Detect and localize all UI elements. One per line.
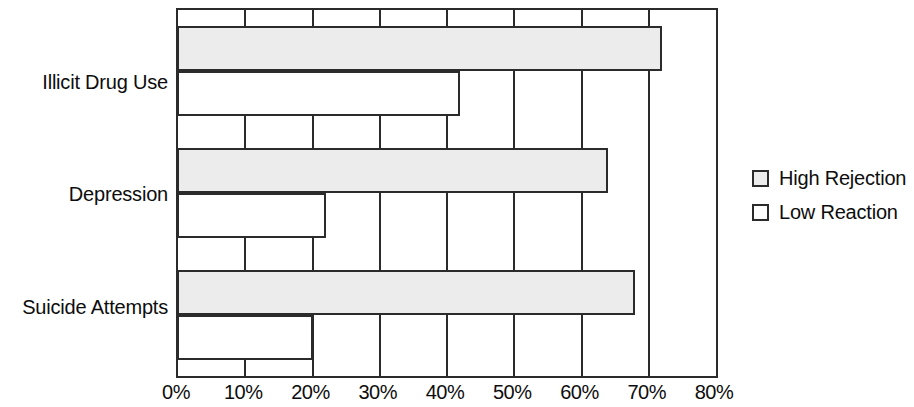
x-tick-label: 0%	[162, 380, 190, 404]
bar-depression-high-rejection	[177, 148, 608, 193]
legend-label-low-reaction: Low Reaction	[779, 201, 898, 223]
x-tick-label: 40%	[426, 380, 465, 404]
x-tick-label: 70%	[627, 380, 666, 404]
category-label-depression: Depression	[69, 183, 168, 205]
bar-illicit-drug-use-low-reaction	[177, 71, 460, 116]
x-tick-label: 60%	[560, 380, 599, 404]
legend-label-high-rejection: High Rejection	[779, 167, 906, 189]
bar-illicit-drug-use-high-rejection	[177, 26, 662, 71]
legend-swatch-icon-high-rejection	[752, 170, 769, 187]
bar-suicide-attempts-high-rejection	[177, 270, 635, 315]
category-label-illicit-drug-use: Illicit Drug Use	[42, 71, 168, 93]
plot-area	[176, 8, 718, 378]
x-tick-label: 50%	[493, 380, 532, 404]
x-tick-label: 30%	[358, 380, 397, 404]
x-tick-label: 20%	[291, 380, 330, 404]
legend-item-low-reaction: Low Reaction	[752, 197, 912, 227]
legend: High Rejection Low Reaction	[752, 163, 912, 231]
legend-swatch-icon-low-reaction	[752, 204, 769, 221]
legend-item-high-rejection: High Rejection	[752, 163, 912, 193]
bar-chart: Illicit Drug Use Depression Suicide Atte…	[0, 0, 914, 407]
category-axis: Illicit Drug Use Depression Suicide Atte…	[0, 0, 168, 407]
x-axis-tick-labels: 0%10%20%30%40%50%60%70%80%	[176, 380, 718, 407]
category-label-suicide-attempts: Suicide Attempts	[22, 296, 168, 318]
bar-depression-low-reaction	[177, 193, 326, 238]
x-tick-label: 80%	[695, 380, 734, 404]
bar-suicide-attempts-low-reaction	[177, 315, 313, 360]
x-tick-label: 10%	[224, 380, 263, 404]
